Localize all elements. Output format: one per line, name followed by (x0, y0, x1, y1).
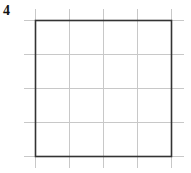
grid-lines (24, 9, 184, 168)
square-grid-diagram (0, 0, 191, 173)
